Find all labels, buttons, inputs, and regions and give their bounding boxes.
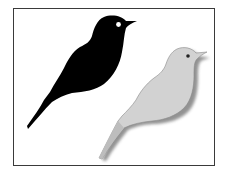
- gray-bird-eye: [186, 54, 190, 58]
- black-bird-eye: [116, 22, 121, 27]
- black-bird-icon: [27, 16, 137, 129]
- birds-illustration: [0, 0, 227, 181]
